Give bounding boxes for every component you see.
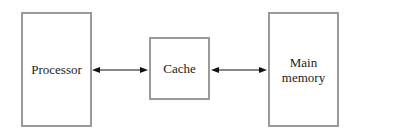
processor-cache-arrow xyxy=(92,67,148,73)
cache-memory-arrow xyxy=(211,67,267,73)
connector-arrows xyxy=(0,0,403,131)
